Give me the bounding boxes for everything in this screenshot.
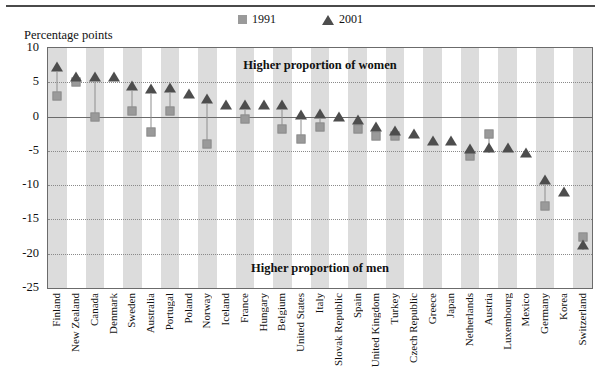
- x-tick-label: Portugal: [163, 293, 175, 330]
- x-label-germany: Germany: [538, 293, 550, 334]
- x-label-belgium: Belgium: [275, 293, 287, 331]
- category-band: [573, 48, 592, 288]
- x-tick-label: United Kingdom: [369, 293, 381, 367]
- triangle-marker-2001: [502, 142, 514, 152]
- square-marker-1991: [240, 114, 249, 123]
- triangle-marker-2001: [427, 136, 439, 146]
- connector-line: [207, 104, 208, 144]
- x-tick-label: Belgium: [275, 293, 287, 331]
- x-tick-label: Italy: [313, 293, 325, 313]
- x-tick-label: Austria: [482, 293, 494, 325]
- square-marker-1991: [541, 201, 550, 210]
- square-marker-1991: [353, 124, 362, 133]
- square-marker-1991: [128, 107, 137, 116]
- triangle-marker-2001: [70, 72, 82, 82]
- triangle-marker-icon: [322, 15, 334, 25]
- legend-entry-1991: 1991: [238, 12, 276, 27]
- x-label-united-states: United States: [294, 293, 306, 352]
- x-label-greece: Greece: [426, 293, 438, 324]
- x-label-finland: Finland: [50, 293, 62, 327]
- triangle-marker-2001: [577, 240, 589, 250]
- chart-legend: 1991 2001: [0, 12, 601, 27]
- x-tick-label: New Zealand: [69, 293, 81, 352]
- x-label-japan: Japan: [444, 293, 456, 318]
- header-divider: [6, 5, 595, 7]
- triangle-marker-2001: [295, 110, 307, 120]
- x-label-denmark: Denmark: [107, 293, 119, 334]
- square-marker-1991: [484, 129, 493, 138]
- square-marker-1991: [297, 135, 306, 144]
- category-band: [423, 48, 442, 288]
- x-tick-label: Germany: [538, 293, 550, 334]
- gridline: [48, 219, 592, 220]
- x-tick-label: Canada: [88, 293, 100, 326]
- category-band: [311, 48, 330, 288]
- x-tick-label: Czech Republic: [407, 293, 419, 363]
- x-label-france: France: [238, 293, 250, 323]
- x-tick-label: Mexico: [519, 293, 531, 327]
- category-band: [348, 48, 367, 288]
- y-tick-label: 0: [33, 108, 39, 123]
- triangle-marker-2001: [408, 129, 420, 139]
- square-marker-1991: [147, 127, 156, 136]
- x-tick-label: Poland: [182, 293, 194, 324]
- category-band: [236, 48, 255, 288]
- x-label-korea: Korea: [557, 293, 569, 320]
- square-marker-1991: [278, 124, 287, 133]
- x-label-sweden: Sweden: [125, 293, 137, 328]
- x-tick-label: Sweden: [125, 293, 137, 328]
- square-marker-1991: [316, 122, 325, 131]
- x-tick-label: Netherlands: [463, 293, 475, 346]
- triangle-marker-2001: [164, 82, 176, 92]
- annotation-higher-women: Higher proportion of women: [48, 58, 592, 73]
- x-label-australia: Australia: [144, 293, 156, 333]
- legend-entry-2001: 2001: [322, 12, 363, 27]
- category-band: [498, 48, 517, 288]
- x-tick-label: Iceland: [219, 293, 231, 325]
- category-band: [536, 48, 555, 288]
- x-tick-label: Australia: [144, 293, 156, 333]
- x-tick-label: Denmark: [107, 293, 119, 334]
- x-label-united-kingdom: United Kingdom: [369, 293, 381, 367]
- x-label-portugal: Portugal: [163, 293, 175, 330]
- x-label-turkey: Turkey: [388, 293, 400, 324]
- legend-label-1991: 1991: [252, 12, 276, 27]
- y-tick-label: 5: [33, 74, 39, 89]
- x-label-netherlands: Netherlands: [463, 293, 475, 346]
- y-tick-label: -5: [29, 142, 39, 157]
- x-tick-label: United States: [294, 293, 306, 352]
- plot-area: Higher proportion of women Higher propor…: [47, 47, 593, 289]
- x-tick-label: Hungary: [257, 293, 269, 332]
- x-label-czech-republic: Czech Republic: [407, 293, 419, 363]
- x-label-luxembourg: Luxembourg: [501, 293, 513, 350]
- triangle-marker-2001: [352, 115, 364, 125]
- square-marker-1991: [53, 92, 62, 101]
- y-tick-label: -10: [22, 177, 39, 192]
- triangle-marker-2001: [220, 99, 232, 109]
- x-label-hungary: Hungary: [257, 293, 269, 332]
- x-axis-category-labels: FinlandNew ZealandCanadaDenmarkSwedenAus…: [47, 291, 593, 389]
- y-axis-tick-labels: 1050-5-10-15-20-25: [0, 47, 42, 289]
- category-band: [198, 48, 217, 288]
- x-label-iceland: Iceland: [219, 293, 231, 325]
- triangle-marker-2001: [51, 62, 63, 72]
- x-label-italy: Italy: [313, 293, 325, 313]
- triangle-marker-2001: [258, 99, 270, 109]
- y-tick-label: -20: [22, 245, 39, 260]
- x-tick-label: Korea: [557, 293, 569, 320]
- x-tick-label: Slovak Republic: [332, 293, 344, 366]
- triangle-marker-2001: [558, 187, 570, 197]
- x-tick-label: Turkey: [388, 293, 400, 324]
- category-band: [273, 48, 292, 288]
- triangle-marker-2001: [108, 72, 120, 82]
- square-marker-1991: [165, 107, 174, 116]
- x-tick-label: Spain: [351, 293, 363, 318]
- triangle-marker-2001: [145, 83, 157, 93]
- x-label-norway: Norway: [200, 293, 212, 328]
- square-marker-1991: [90, 112, 99, 121]
- x-tick-label: Greece: [426, 293, 438, 324]
- triangle-marker-2001: [239, 99, 251, 109]
- x-tick-label: France: [238, 293, 250, 323]
- triangle-marker-2001: [445, 136, 457, 146]
- triangle-marker-2001: [483, 142, 495, 152]
